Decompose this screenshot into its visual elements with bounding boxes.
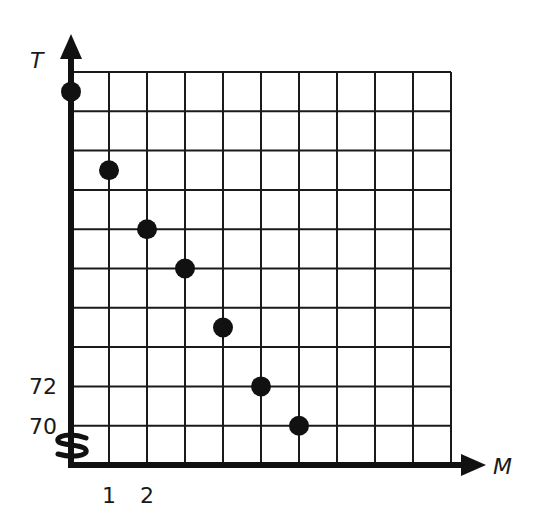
y-tick-label: 72 (29, 374, 57, 399)
y-axis-label: T (30, 48, 45, 73)
axes (58, 34, 486, 476)
x-tick-label: 2 (140, 483, 154, 508)
data-point (213, 317, 233, 337)
data-point (289, 416, 309, 436)
data-point (175, 259, 195, 279)
axis-labels: T M 127072 (29, 48, 512, 508)
data-point (61, 82, 81, 102)
x-tick-label: 1 (102, 483, 116, 508)
y-tick-label: 70 (29, 414, 57, 439)
x-axis-label: M (493, 454, 512, 479)
data-point (99, 160, 119, 180)
grid-lines (71, 72, 451, 465)
data-point (251, 376, 271, 396)
data-point (137, 219, 157, 239)
y-axis-arrow-icon (60, 34, 82, 59)
scatter-chart: T M 127072 (0, 0, 543, 526)
x-axis-arrow-icon (461, 454, 486, 476)
